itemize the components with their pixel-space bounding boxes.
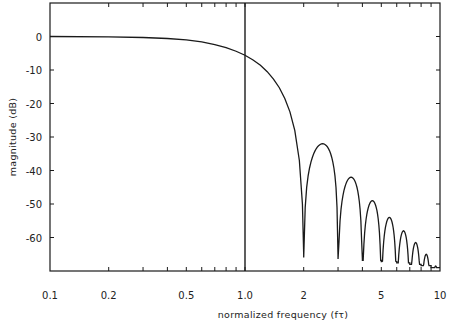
y-tick-label: -30: [26, 132, 42, 143]
y-tick-label: -20: [26, 99, 42, 110]
x-tick-label: 0.2: [101, 290, 117, 301]
y-tick-label: -60: [26, 233, 42, 244]
y-axis-label: magnitude (dB): [7, 98, 18, 177]
y-tick-label: -10: [26, 65, 42, 76]
x-axis-ticks: 0.10.20.51.02510: [42, 3, 446, 301]
x-tick-label: 0.1: [42, 290, 58, 301]
x-tick-label: 5: [378, 290, 384, 301]
y-tick-label: 0: [36, 32, 42, 43]
x-tick-label: 10: [434, 290, 447, 301]
x-axis-label: normalized frequency (fτ): [218, 309, 348, 320]
y-axis-ticks: 0-10-20-30-40-50-60: [26, 32, 440, 244]
y-tick-label: -50: [26, 199, 42, 210]
x-tick-label: 0.5: [178, 290, 194, 301]
x-tick-label: 1.0: [237, 290, 253, 301]
y-tick-label: -40: [26, 166, 42, 177]
x-tick-label: 2: [301, 290, 307, 301]
magnitude-chart: 0.10.20.51.02510 0-10-20-30-40-50-60 nor…: [0, 0, 450, 324]
